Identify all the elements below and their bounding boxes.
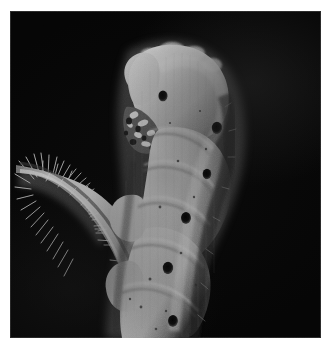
spiracle-5: [168, 315, 178, 327]
spiracle-2: [203, 169, 212, 179]
caterpillar-layer: [10, 11, 321, 338]
photograph: [10, 11, 321, 338]
spiracle-1: [212, 122, 222, 134]
paper-margin-top: [0, 0, 331, 11]
paper-margin-right: [321, 0, 331, 352]
ocellus: [158, 90, 167, 101]
paper-margin-bottom: [0, 338, 331, 352]
spiracle-3: [181, 212, 191, 224]
screenshot-root: [0, 0, 331, 352]
spiracle-4: [163, 262, 173, 274]
paper-margin-left: [0, 0, 10, 352]
